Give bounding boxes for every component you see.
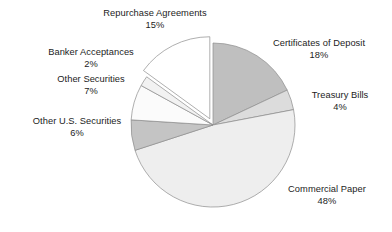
slice-label-value: 15% xyxy=(60,20,250,32)
slice-label-name: Other U.S. Securities xyxy=(2,116,152,128)
slice-label-repurchase-agreements: Repurchase Agreements 15% xyxy=(60,8,250,31)
slice-label-value: 4% xyxy=(290,102,390,114)
slice-label-name: Commercial Paper xyxy=(264,184,390,196)
slice-label-value: 7% xyxy=(16,86,166,98)
slice-label-other-securities: Other Securities 7% xyxy=(16,74,166,97)
slice-label-value: 48% xyxy=(264,196,390,208)
slice-label-banker-acceptances: Banker Acceptances 2% xyxy=(16,47,166,70)
slice-label-value: 2% xyxy=(16,59,166,71)
slice-label-certificates-of-deposit: Certificates of Deposit 18% xyxy=(248,38,390,61)
slice-label-name: Repurchase Agreements xyxy=(60,8,250,20)
slice-label-commercial-paper: Commercial Paper 48% xyxy=(264,184,390,207)
slice-label-name: Certificates of Deposit xyxy=(248,38,390,50)
slice-label-name: Other Securities xyxy=(16,74,166,86)
slice-label-value: 18% xyxy=(248,50,390,62)
slice-label-other-us-securities: Other U.S. Securities 6% xyxy=(2,116,152,139)
slice-label-name: Treasury Bills xyxy=(290,90,390,102)
slice-label-name: Banker Acceptances xyxy=(16,47,166,59)
slice-label-treasury-bills: Treasury Bills 4% xyxy=(290,90,390,113)
pie-chart-figure: Repurchase Agreements 15% Banker Accepta… xyxy=(0,0,392,232)
slice-label-value: 6% xyxy=(2,128,152,140)
